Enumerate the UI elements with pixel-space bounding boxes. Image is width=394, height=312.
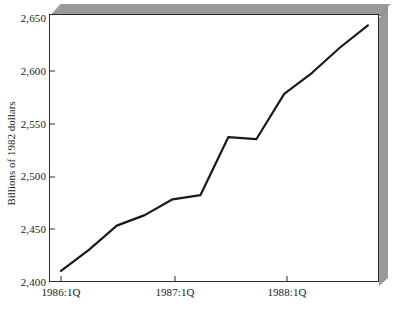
data-series-line (61, 25, 368, 271)
y-axis-ticks (49, 71, 55, 229)
plot-canvas (0, 0, 394, 312)
x-axis-ticks (61, 276, 287, 282)
chart-figure: 2,650 2,600 2,550 2,500 2,450 2,400 1986… (0, 0, 394, 312)
